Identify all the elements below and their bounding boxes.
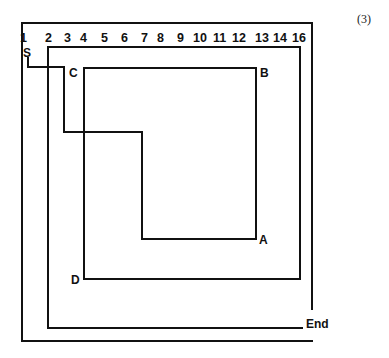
column-number: 9 (177, 31, 184, 45)
column-number: 10 (193, 31, 207, 45)
column-number: 8 (157, 31, 164, 45)
column-number: 1 (20, 31, 27, 45)
column-number: 13 (255, 31, 269, 45)
end-label: End (306, 317, 329, 331)
column-number: 7 (141, 31, 148, 45)
column-number: 14 (273, 31, 287, 45)
column-number: 5 (101, 31, 108, 45)
point-c-label: C (69, 66, 78, 80)
figure-number: (3) (357, 12, 371, 26)
point-b-label: B (260, 66, 269, 80)
column-number: 3 (64, 31, 71, 45)
route-path (28, 47, 302, 328)
column-number: 2 (45, 31, 52, 45)
column-number: 16 (292, 31, 306, 45)
maze-path-diagram: 1 2 3 4 5 6 7 8 9 10 11 12 13 14 16 S C … (0, 0, 389, 358)
column-number: 11 (213, 31, 226, 45)
column-number: 4 (80, 31, 87, 45)
column-number: 6 (121, 31, 128, 45)
column-numbers: 1 2 3 4 5 6 7 8 9 10 11 12 13 14 16 (20, 31, 306, 45)
column-number: 12 (232, 31, 246, 45)
point-a-label: A (259, 233, 268, 247)
start-label: S (23, 46, 31, 60)
point-d-label: D (71, 273, 80, 287)
